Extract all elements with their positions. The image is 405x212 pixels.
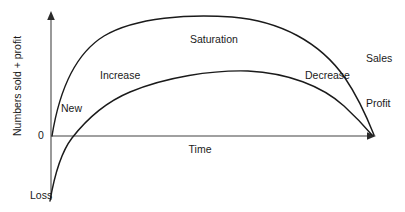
sales-curve-label: Sales bbox=[366, 53, 392, 64]
x-axis-title: Time bbox=[189, 144, 212, 155]
y-axis-title: Numbers sold + profit bbox=[12, 36, 23, 136]
x-axis bbox=[51, 132, 376, 140]
product-life-cycle-diagram: Numbers sold + profit 0 Loss New Increas… bbox=[0, 0, 405, 212]
loss-label: Loss bbox=[30, 190, 52, 201]
stage-label-increase: Increase bbox=[100, 70, 140, 81]
profit-curve-label: Profit bbox=[366, 98, 391, 109]
y-axis-arrowhead-icon bbox=[47, 11, 55, 20]
y-axis bbox=[47, 11, 55, 200]
stage-label-decrease: Decrease bbox=[305, 70, 350, 81]
origin-zero-label: 0 bbox=[38, 130, 44, 141]
stage-label-saturation: Saturation bbox=[190, 34, 238, 45]
stage-label-new: New bbox=[61, 103, 82, 114]
